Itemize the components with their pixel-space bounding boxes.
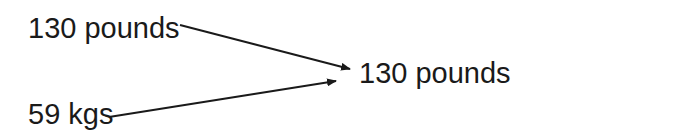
node-bottom-left: 59 kgs bbox=[28, 100, 113, 129]
node-top-left: 130 pounds bbox=[28, 14, 180, 43]
arrow-bottom-to-right bbox=[109, 81, 336, 117]
arrow-top-to-right bbox=[180, 25, 350, 69]
node-right: 130 pounds bbox=[359, 59, 511, 88]
conversion-diagram: 130 pounds 59 kgs 130 pounds bbox=[0, 0, 675, 138]
